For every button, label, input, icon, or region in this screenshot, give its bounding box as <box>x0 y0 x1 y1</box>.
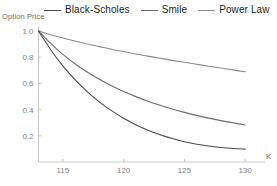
curve-smile <box>39 31 246 125</box>
y-tick-label: 1.0 <box>22 27 34 36</box>
curve-black-scholes <box>39 31 246 149</box>
y-tick-label: 0.8 <box>22 53 34 62</box>
y-tick-label: 0.6 <box>22 79 34 88</box>
chart-container: Black-Scholes Smile Power Law Option Pri… <box>0 0 277 186</box>
data-curves <box>39 31 246 149</box>
x-tick-label: 125 <box>178 166 192 175</box>
y-axis: 1.00.80.60.40.2 <box>22 27 41 162</box>
x-axis: 115120125130 <box>39 159 266 175</box>
curve-power-law <box>39 31 246 72</box>
plot-area: 1.00.80.60.40.2 115120125130 <box>0 0 277 186</box>
x-tick-label: 115 <box>56 166 69 175</box>
y-tick-label: 0.4 <box>22 106 34 115</box>
x-tick-label: 130 <box>239 166 253 175</box>
x-tick-label: 120 <box>117 166 131 175</box>
y-tick-label: 0.2 <box>22 132 34 141</box>
